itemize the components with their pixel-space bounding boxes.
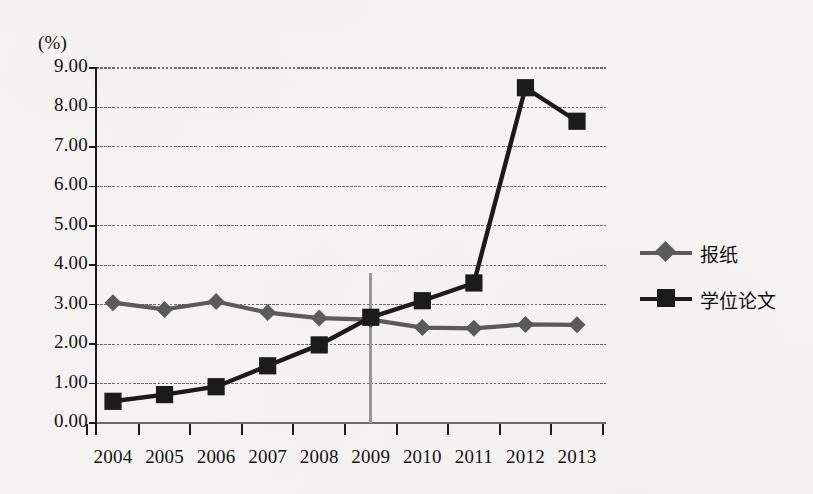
data-point-diamond-marker bbox=[105, 294, 122, 311]
gridline-group bbox=[96, 68, 606, 423]
data-point-diamond-marker bbox=[569, 316, 586, 333]
data-point-diamond-marker bbox=[259, 304, 276, 321]
data-point-square-marker bbox=[104, 393, 121, 410]
data-point-square-marker bbox=[517, 79, 534, 96]
series-line bbox=[113, 88, 577, 402]
series-thesis bbox=[104, 79, 585, 410]
data-point-diamond-marker bbox=[465, 320, 482, 337]
data-point-diamond-marker bbox=[311, 310, 328, 327]
data-point-square-marker bbox=[259, 357, 276, 374]
legend-key-square-icon bbox=[640, 288, 692, 310]
data-point-square-marker bbox=[465, 274, 482, 291]
legend-label-newspaper: 报纸 bbox=[700, 240, 738, 267]
legend-item-newspaper: 报纸 bbox=[640, 230, 776, 276]
data-point-square-marker bbox=[568, 113, 585, 130]
chart-legend: 报纸 学位论文 bbox=[640, 230, 776, 322]
series-group bbox=[104, 79, 585, 410]
series-line bbox=[113, 302, 577, 329]
data-point-square-marker bbox=[311, 336, 328, 353]
data-point-diamond-marker bbox=[517, 316, 534, 333]
data-point-diamond-marker bbox=[414, 319, 431, 336]
data-point-square-marker bbox=[156, 386, 173, 403]
data-point-square-marker bbox=[208, 378, 225, 395]
axis-group bbox=[87, 67, 603, 435]
data-point-square-marker bbox=[362, 309, 379, 326]
legend-item-thesis: 学位论文 bbox=[640, 276, 776, 322]
data-point-diamond-marker bbox=[156, 301, 173, 318]
legend-key-diamond-icon bbox=[640, 242, 692, 264]
legend-label-thesis: 学位论文 bbox=[700, 286, 776, 313]
data-point-square-marker bbox=[414, 292, 431, 309]
chart-page: (%) 9.008.007.006.005.004.003.002.001.00… bbox=[0, 0, 813, 494]
data-point-diamond-marker bbox=[208, 293, 225, 310]
